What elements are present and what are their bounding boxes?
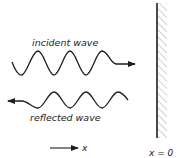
wall-hatching: [157, 3, 167, 138]
x-axis-label: x: [81, 143, 88, 153]
reflecting-wall: [157, 3, 167, 138]
wall-position-label: x = 0: [148, 148, 174, 158]
incident-wave: [12, 51, 135, 75]
reflected-wave: [8, 92, 128, 108]
wave-reflection-diagram: incident wave reflected wave x = 0 x: [0, 0, 176, 158]
incident-wave-label: incident wave: [32, 37, 98, 48]
reflected-wave-label: reflected wave: [30, 112, 101, 123]
